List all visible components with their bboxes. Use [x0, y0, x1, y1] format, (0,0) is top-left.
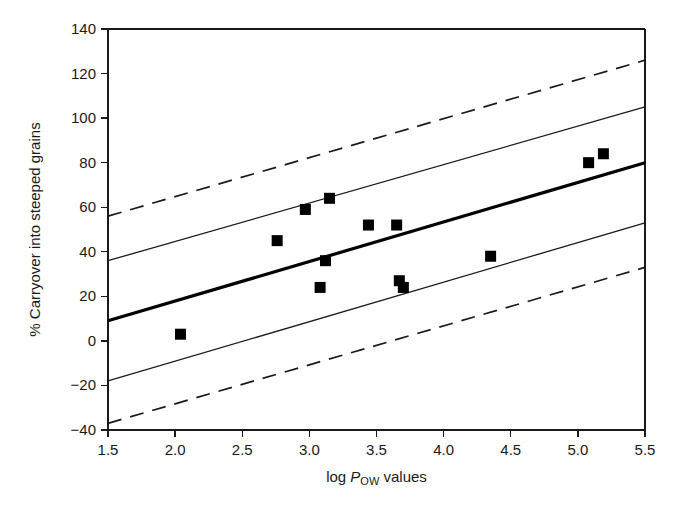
data-point-marker — [315, 282, 326, 293]
scatter-plot: 140120100806040200−20−401.52.02.53.03.54… — [0, 0, 680, 516]
x-tick-label: 4.5 — [500, 441, 521, 458]
y-axis-title: % Carryover into steeped grains — [26, 122, 43, 336]
y-tick-label: −40 — [71, 421, 96, 438]
data-point-marker — [485, 251, 496, 262]
regression-band-group — [108, 60, 645, 423]
regression-line — [108, 163, 645, 321]
data-point-marker — [272, 235, 283, 246]
data-point-marker — [391, 220, 402, 231]
x-tick-label: 5.5 — [635, 441, 656, 458]
x-tick-label: 4.0 — [433, 441, 454, 458]
y-tick-label: 140 — [71, 20, 96, 37]
y-tick-label: −20 — [71, 376, 96, 393]
y-tick-label: 0 — [88, 332, 96, 349]
x-tick-label: 3.0 — [299, 441, 320, 458]
y-tick-label: 40 — [79, 243, 96, 260]
prediction-band-upper — [108, 60, 645, 216]
data-point-marker — [583, 157, 594, 168]
y-tick-label: 20 — [79, 287, 96, 304]
x-tick-label: 2.5 — [232, 441, 253, 458]
data-point-group — [175, 148, 609, 339]
confidence-band-upper — [108, 107, 645, 261]
x-tick-label: 1.5 — [98, 441, 119, 458]
data-point-marker — [300, 204, 311, 215]
y-tick-label: 120 — [71, 65, 96, 82]
x-tick-label: 2.0 — [165, 441, 186, 458]
data-point-marker — [324, 193, 335, 204]
y-tick-label: 60 — [79, 198, 96, 215]
y-tick-label: 100 — [71, 109, 96, 126]
x-axis-title: log POW values — [326, 468, 427, 487]
x-tick-label: 3.5 — [366, 441, 387, 458]
data-point-marker — [363, 220, 374, 231]
axis-group: 140120100806040200−20−401.52.02.53.03.54… — [71, 20, 656, 458]
prediction-band-lower — [108, 267, 645, 423]
data-point-marker — [398, 282, 409, 293]
data-point-marker — [598, 148, 609, 159]
y-tick-label: 80 — [79, 154, 96, 171]
confidence-band-lower — [108, 223, 645, 381]
figure-container: 140120100806040200−20−401.52.02.53.03.54… — [0, 0, 680, 516]
axis-spines — [108, 29, 645, 430]
x-tick-label: 5.0 — [567, 441, 588, 458]
data-point-marker — [320, 255, 331, 266]
data-point-marker — [175, 329, 186, 340]
